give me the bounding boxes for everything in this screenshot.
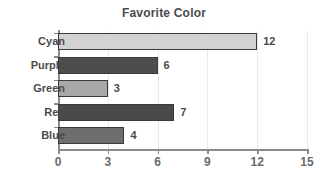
x-axis-tick xyxy=(108,149,110,154)
x-axis-tick-label: 15 xyxy=(295,155,319,169)
bar-value-label: 4 xyxy=(130,127,136,144)
bar[interactable] xyxy=(58,57,158,74)
bar-chart: Favorite Color 126374 CyanPurpleGreenRed… xyxy=(0,0,328,177)
x-axis-tick-label: 3 xyxy=(96,155,120,169)
bar[interactable] xyxy=(58,127,124,144)
bar[interactable] xyxy=(58,80,108,97)
y-axis-category-label: Red xyxy=(5,104,65,121)
bar-value-label: 3 xyxy=(114,80,120,97)
bar[interactable] xyxy=(58,104,174,121)
bar-value-label: 6 xyxy=(164,57,170,74)
x-axis-tick xyxy=(207,149,209,154)
x-axis-line xyxy=(58,149,308,151)
bar[interactable] xyxy=(58,33,257,50)
bar-value-label: 12 xyxy=(263,33,275,50)
x-axis-tick xyxy=(58,149,60,154)
x-axis-tick xyxy=(307,149,309,154)
y-axis-category-label: Green xyxy=(5,80,65,97)
x-axis-tick-label: 6 xyxy=(146,155,170,169)
chart-title: Favorite Color xyxy=(0,6,328,20)
gridline xyxy=(307,31,308,149)
x-axis-tick-label: 0 xyxy=(46,155,70,169)
x-axis-tick-label: 9 xyxy=(195,155,219,169)
bar-value-label: 7 xyxy=(180,104,186,121)
y-axis-category-label: Purple xyxy=(5,57,65,74)
y-axis-category-label: Cyan xyxy=(5,33,65,50)
gridline xyxy=(257,31,258,149)
x-axis-tick xyxy=(257,149,259,154)
y-axis-category-label: Blue xyxy=(5,127,65,144)
x-axis-tick-label: 12 xyxy=(245,155,269,169)
x-axis-tick xyxy=(158,149,160,154)
